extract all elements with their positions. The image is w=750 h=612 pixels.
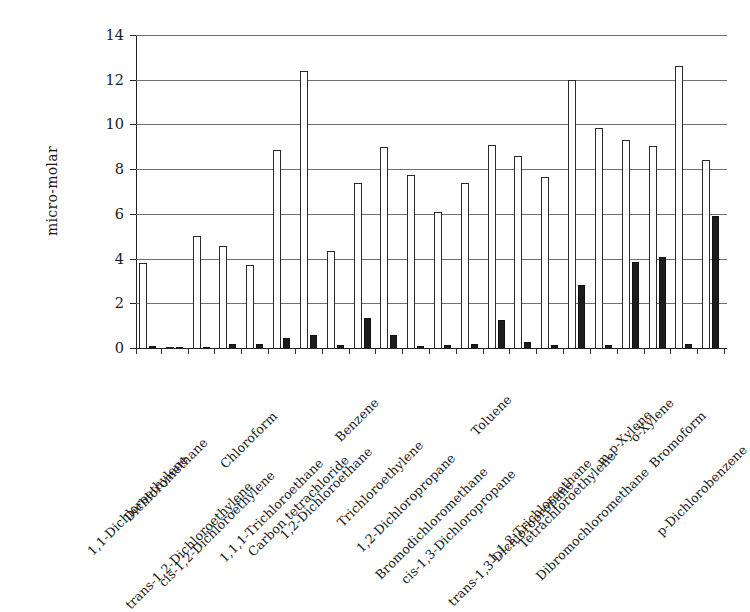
bar-solid xyxy=(444,345,451,348)
x-axis-label: Chloroform xyxy=(218,410,279,471)
x-tick-mark xyxy=(509,349,510,354)
bar-open xyxy=(434,212,442,348)
bar-solid xyxy=(283,338,290,348)
bar-open xyxy=(327,251,335,348)
bar-open xyxy=(461,183,469,348)
y-tick-mark xyxy=(130,80,136,81)
bar-solid xyxy=(605,345,612,348)
bar-open xyxy=(407,175,415,348)
x-tick-mark xyxy=(644,349,645,354)
bar-solid xyxy=(229,344,236,348)
x-tick-mark xyxy=(697,349,698,354)
bar-open xyxy=(675,66,683,348)
gridline xyxy=(136,214,727,215)
x-axis-label: Carbon tetrachloride xyxy=(246,454,351,559)
y-tick-mark xyxy=(130,35,136,36)
bar-open xyxy=(166,347,174,348)
x-tick-mark xyxy=(670,349,671,354)
bar-open xyxy=(541,177,549,348)
bar-solid xyxy=(551,345,558,348)
bar-open xyxy=(514,156,522,348)
y-tick-label: 10 xyxy=(98,117,124,132)
bar-open xyxy=(246,265,254,348)
bar-solid xyxy=(659,257,666,348)
bar-solid xyxy=(712,216,719,348)
bar-open xyxy=(649,146,657,348)
gridline xyxy=(136,169,727,170)
y-tick-label: 4 xyxy=(98,252,124,267)
x-tick-mark xyxy=(349,349,350,354)
bar-solid xyxy=(471,344,478,348)
x-axis-label: Benzene xyxy=(334,396,382,444)
y-tick-mark xyxy=(130,124,136,125)
bar-open xyxy=(273,150,281,348)
x-tick-mark xyxy=(161,349,162,354)
bar-solid xyxy=(632,262,639,348)
bar-solid xyxy=(685,344,692,348)
bar-solid xyxy=(203,347,210,348)
bar-solid xyxy=(364,318,371,348)
bar-open xyxy=(380,147,388,348)
y-tick-mark xyxy=(130,303,136,304)
y-tick-label: 8 xyxy=(98,162,124,177)
x-tick-mark xyxy=(268,349,269,354)
bar-open xyxy=(702,160,710,348)
y-tick-mark xyxy=(130,169,136,170)
y-tick-mark xyxy=(130,214,136,215)
y-tick-label: 0 xyxy=(98,341,124,356)
bar-open xyxy=(193,236,201,348)
bar-solid xyxy=(310,335,317,348)
x-axis-line xyxy=(136,348,727,349)
bar-solid xyxy=(176,347,183,348)
bar-open xyxy=(139,263,147,348)
x-tick-mark xyxy=(241,349,242,354)
bar-solid xyxy=(256,344,263,348)
bar-open xyxy=(219,246,227,348)
bar-open xyxy=(595,128,603,348)
bar-open xyxy=(354,183,362,348)
x-axis-label: Toluene xyxy=(469,393,514,438)
x-tick-mark xyxy=(617,349,618,354)
y-tick-label: 12 xyxy=(98,73,124,88)
gridline xyxy=(136,80,727,81)
x-tick-mark xyxy=(590,349,591,354)
bar-solid xyxy=(524,342,531,348)
x-tick-mark xyxy=(188,349,189,354)
y-tick-label: 14 xyxy=(98,28,124,43)
y-tick-label: 2 xyxy=(98,296,124,311)
bar-open xyxy=(300,71,308,348)
bar-open xyxy=(568,80,576,348)
bar-solid xyxy=(498,320,505,348)
bar-solid xyxy=(149,346,156,348)
bar-solid xyxy=(417,346,424,348)
bar-solid xyxy=(578,285,585,348)
y-axis-line xyxy=(136,35,137,349)
y-axis-title: micro-molar xyxy=(44,91,60,291)
x-tick-mark xyxy=(214,349,215,354)
x-tick-mark xyxy=(375,349,376,354)
bar-open xyxy=(622,140,630,348)
x-tick-mark xyxy=(402,349,403,354)
x-tick-mark xyxy=(536,349,537,354)
x-tick-mark xyxy=(724,349,725,354)
gridline xyxy=(136,124,727,125)
gridline xyxy=(136,35,727,36)
bar-solid xyxy=(390,335,397,348)
x-tick-mark xyxy=(483,349,484,354)
x-tick-mark xyxy=(563,349,564,354)
x-tick-mark xyxy=(295,349,296,354)
x-tick-mark xyxy=(136,349,137,354)
x-tick-mark xyxy=(456,349,457,354)
x-tick-mark xyxy=(429,349,430,354)
x-axis-label: Dichloromethane xyxy=(122,436,210,524)
y-tick-mark xyxy=(130,259,136,260)
bar-solid xyxy=(337,345,344,348)
y-tick-label: 6 xyxy=(98,207,124,222)
bar-open xyxy=(488,145,496,348)
x-tick-mark xyxy=(322,349,323,354)
